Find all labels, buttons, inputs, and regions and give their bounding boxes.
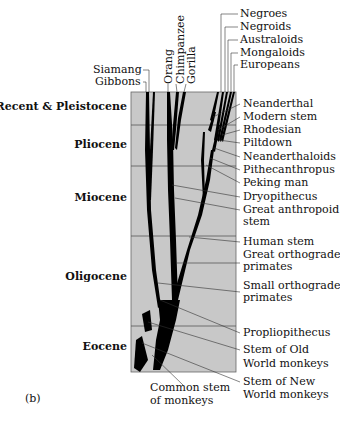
label-neanderthal: Neanderthal xyxy=(243,98,313,110)
label-stem-new-world-2: World monkeys xyxy=(243,389,329,401)
label-peking-man: Peking man xyxy=(243,177,308,189)
label-piltdown: Piltdown xyxy=(243,137,292,149)
label-gibbons: Gibbons xyxy=(95,76,141,88)
label-rhodesian: Rhodesian xyxy=(243,124,301,136)
era-label-pliocene: Pliocene xyxy=(74,138,127,151)
label-negroids: Negroids xyxy=(240,21,291,33)
label-common-stem: Common stem xyxy=(150,382,230,394)
label-gorilla: Gorilla xyxy=(185,46,198,84)
label-dryopithecus: Dryopithecus xyxy=(243,191,317,203)
label-propliopithecus: Propliopithecus xyxy=(243,327,330,339)
era-label-miocene: Miocene xyxy=(75,191,127,204)
label-human-stem: Human stem xyxy=(243,236,314,248)
label-stem-old-world-2: World monkeys xyxy=(243,358,329,370)
label-great-orthograde-primates: primates xyxy=(243,261,292,273)
label-small-orthograde-primates: primates xyxy=(243,292,292,304)
panel-label: (b) xyxy=(25,393,41,405)
era-label-oligocene: Oligocene xyxy=(65,270,127,283)
label-neanderthaloids: Neanderthaloids xyxy=(243,151,336,163)
era-label-eocene: Eocene xyxy=(83,340,127,353)
label-pithecanthropus: Pithecanthropus xyxy=(243,164,335,176)
label-modern-stem: Modern stem xyxy=(243,111,317,123)
label-europeans: Europeans xyxy=(240,59,300,71)
label-stem-new-world: Stem of New xyxy=(243,376,315,388)
label-australoids: Australoids xyxy=(240,34,303,46)
label-negroes: Negroes xyxy=(240,8,287,20)
label-great-anthropoid-stem: stem xyxy=(243,216,270,228)
label-stem-old-world: Stem of Old xyxy=(243,344,309,356)
label-common-stem-2: of monkeys xyxy=(150,395,213,407)
era-label-recent-pleistocene: Recent & Pleistocene xyxy=(0,100,127,113)
